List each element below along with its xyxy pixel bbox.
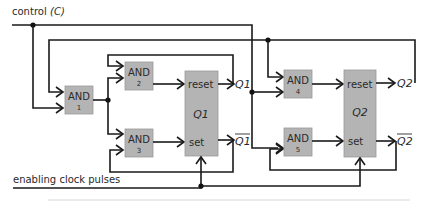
and5-label: AND [287,133,309,144]
q1bar-output-label: Q1 [235,135,251,148]
and2-number: 2 [137,80,141,88]
ff2-set-label: set [348,136,363,147]
control-label: control [12,6,47,17]
and4-number: 4 [296,88,301,96]
ff2-reset-label: reset [347,79,372,90]
q2bar-output-label: Q2 [397,135,413,148]
and4-label: AND [287,75,309,86]
and3-label: AND [128,134,150,145]
and5-number: 5 [296,146,300,154]
feedback-to-and4 [268,40,282,77]
and1-number: 1 [77,104,81,112]
ff1-reset-label: reset [188,79,213,90]
ff1-name: Q1 [193,108,209,121]
q2-output-label: Q2 [397,77,413,90]
and2-label: AND [128,67,150,78]
ff2-name: Q2 [352,106,368,119]
q1-output-label: Q1 [235,78,251,91]
control-symbol: (C) [50,6,65,17]
and1-to-and2 [108,78,122,100]
and3-number: 3 [137,147,141,155]
ff1-set-label: set [189,137,204,148]
and1-label: AND [68,91,90,102]
logic-circuit-diagram: control (C) AND 1 AND 2 AND 3 reset Q1 s… [0,0,423,202]
and1-to-and3 [108,100,122,134]
clock-label: enabling clock pulses [13,174,120,185]
